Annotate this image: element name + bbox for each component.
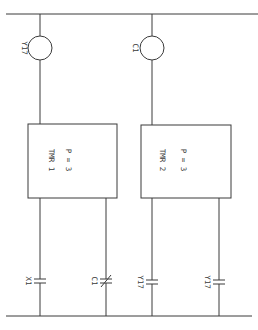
coil-icon xyxy=(140,36,164,60)
contact-label: Y17 xyxy=(203,275,212,289)
timer-preset: P = 3 xyxy=(179,149,188,172)
contact-label: Y17 xyxy=(136,275,145,289)
ladder-diagram: Y17 TMR 1 P = 3 X1 C1 C1 TMR 2 P = 3 Y17 xyxy=(0,0,258,330)
timer-name: TMR 2 xyxy=(158,149,167,172)
rung-1: Y17 TMR 1 P = 3 X1 C1 xyxy=(20,14,117,316)
contact-label: X1 xyxy=(24,276,33,285)
coil-icon xyxy=(28,36,52,60)
coil-label: Y17 xyxy=(20,41,29,55)
timer-preset: P = 3 xyxy=(64,149,73,172)
timer-name: TMR 1 xyxy=(47,149,56,172)
rung-2: C1 TMR 2 P = 3 Y17 Y17 xyxy=(131,14,231,316)
coil-label: C1 xyxy=(131,43,140,52)
contact-label: C1 xyxy=(90,276,99,285)
